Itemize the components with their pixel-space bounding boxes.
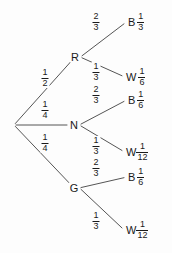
fraction-denominator: 12 (136, 230, 148, 241)
edge-N-W (81, 126, 122, 150)
node-label-R: R (70, 52, 80, 63)
fraction-numerator: 2 (92, 158, 99, 168)
fraction-denominator: 2 (41, 78, 48, 89)
outcome-R-W: W 1 6 (126, 67, 145, 87)
fraction-numerator: 2 (92, 85, 99, 95)
edge-R-W (82, 58, 122, 76)
fraction-denominator: 6 (137, 100, 144, 111)
branch-probability-G-B: 2 3 (91, 158, 100, 178)
fraction-denominator: 3 (137, 22, 144, 33)
fraction-numerator: 1 (137, 167, 144, 177)
edge-G-B (81, 178, 124, 188)
branch-probability-G: 1 4 (40, 133, 49, 153)
fraction-numerator: 1 (138, 67, 145, 77)
edge-G-W (81, 189, 122, 228)
outcome-R-B: B 1 3 (128, 12, 144, 32)
fraction-denominator: 3 (92, 146, 99, 157)
branch-probability-R-B: 2 3 (91, 12, 100, 32)
fraction-denominator: 3 (92, 221, 99, 232)
fraction-denominator: 4 (41, 110, 48, 121)
fraction-numerator: 1 (41, 133, 48, 143)
outcome-letter: W (126, 225, 136, 236)
fraction-numerator: 1 (41, 100, 48, 110)
fraction-denominator: 6 (137, 177, 144, 188)
branch-probability-N-B: 2 3 (91, 85, 100, 105)
outcome-G-W: W 1 12 (126, 220, 148, 240)
outcome-N-B: B 1 6 (128, 90, 144, 110)
probability-tree-diagram: R N G 1 2 1 4 1 4 2 3 1 3 2 3 (0, 0, 172, 253)
branch-probability-R: 1 2 (40, 68, 49, 88)
fraction-numerator: 1 (137, 90, 144, 100)
fraction-denominator: 3 (92, 168, 99, 179)
tree-edges (0, 0, 172, 253)
fraction-numerator: 1 (92, 136, 99, 146)
fraction-denominator: 3 (92, 95, 99, 106)
fraction-numerator: 1 (139, 142, 146, 152)
fraction-numerator: 1 (137, 12, 144, 22)
outcome-G-B: B 1 6 (128, 167, 144, 187)
fraction-numerator: 2 (92, 12, 99, 22)
fraction-denominator: 3 (92, 72, 99, 83)
outcome-letter: W (126, 147, 136, 158)
outcome-letter: B (128, 17, 135, 28)
fraction-denominator: 4 (41, 143, 48, 154)
branch-probability-N: 1 4 (40, 100, 49, 120)
fraction-numerator: 1 (92, 211, 99, 221)
fraction-denominator: 6 (138, 77, 145, 88)
node-label-N: N (69, 120, 79, 131)
node-label-G: G (69, 183, 80, 194)
edge-N-B (81, 101, 124, 124)
fraction-denominator: 3 (92, 22, 99, 33)
branch-probability-G-W: 1 3 (91, 211, 100, 231)
fraction-numerator: 1 (92, 62, 99, 72)
outcome-N-W: W 1 12 (126, 142, 148, 162)
fraction-denominator: 12 (136, 152, 148, 163)
outcome-letter: B (128, 95, 135, 106)
fraction-numerator: 1 (41, 68, 48, 78)
outcome-letter: W (126, 72, 136, 83)
branch-probability-R-W: 1 3 (91, 62, 100, 82)
fraction-numerator: 1 (139, 220, 146, 230)
outcome-letter: B (128, 172, 135, 183)
edge-R-B (82, 24, 124, 56)
branch-probability-N-W: 1 3 (91, 136, 100, 156)
